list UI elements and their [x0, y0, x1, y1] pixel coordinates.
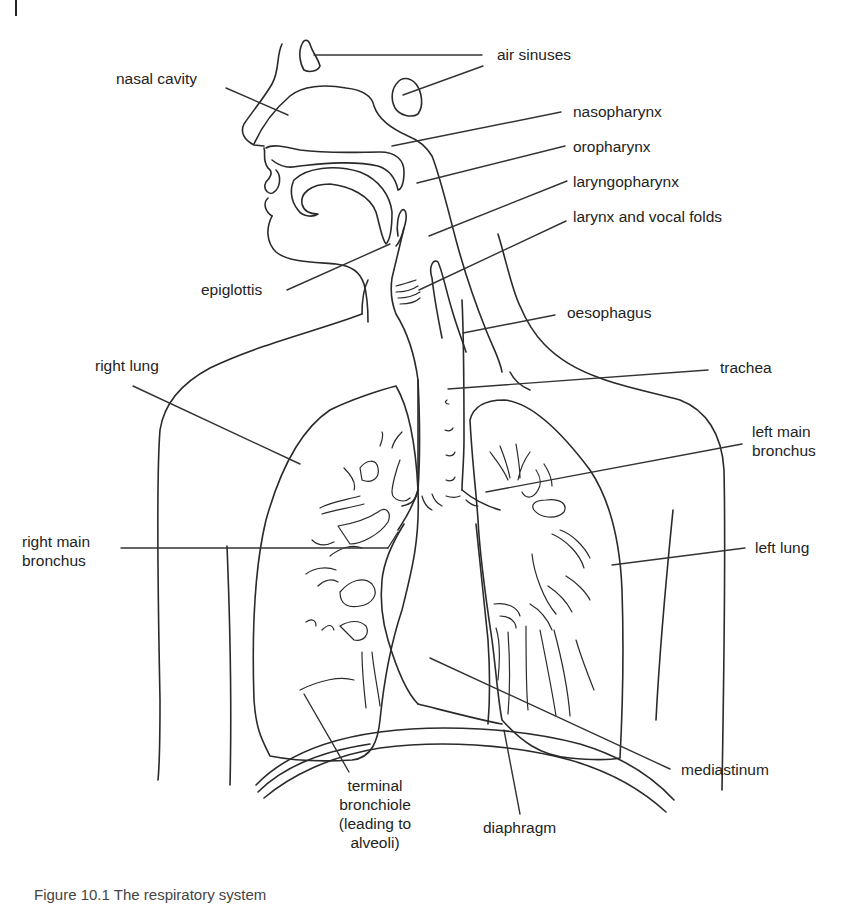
lips-outline	[264, 148, 280, 216]
label-oesophagus: oesophagus	[567, 303, 651, 322]
left-lung-bronchi	[490, 444, 594, 716]
right-shoulder-line	[158, 314, 362, 780]
figure-caption: Figure 10.1 The respiratory system	[34, 886, 266, 903]
label-left-lung: left lung	[755, 538, 809, 557]
oesophagus-outline	[431, 261, 466, 352]
leader-nasal-cavity	[226, 88, 288, 115]
vocal-folds	[396, 280, 420, 304]
leader-laryngopharynx	[429, 181, 567, 236]
tongue-outline	[291, 168, 392, 244]
label-trachea: trachea	[720, 358, 772, 377]
neck-back-line	[510, 372, 530, 390]
label-right-lung: right lung	[95, 356, 159, 375]
leader-oropharynx	[417, 146, 565, 183]
label-larynx-vocal-folds: larynx and vocal folds	[573, 207, 722, 226]
sphenoid-sinus-outline	[392, 78, 421, 116]
left-arm-line	[656, 510, 673, 720]
label-nasal-cavity: nasal cavity	[116, 69, 197, 88]
label-epiglottis: epiglottis	[201, 280, 262, 299]
nasal-inner-line	[254, 86, 502, 372]
right-arm-line	[227, 546, 231, 785]
leader-air-sinus-sphenoid	[403, 66, 483, 95]
leader-diaphragm	[504, 730, 520, 814]
face-profile-upper	[242, 44, 282, 146]
leader-oesophagus	[463, 315, 555, 333]
respiratory-system-diagram: air sinuses nasal cavity nasopharynx oro…	[0, 0, 867, 904]
label-laryngopharynx: laryngopharynx	[573, 172, 679, 191]
trachea-left-wall	[462, 300, 464, 490]
label-left-main-bronchus: left main bronchus	[752, 422, 816, 460]
leader-epiglottis	[287, 244, 390, 290]
label-diaphragm: diaphragm	[483, 818, 556, 837]
label-mediastinum: mediastinum	[681, 760, 769, 779]
leader-left-main-bronchus	[486, 444, 742, 492]
leader-nasopharynx	[392, 112, 561, 146]
trachea-rings	[445, 400, 455, 481]
label-nasopharynx: nasopharynx	[573, 102, 662, 121]
label-air-sinuses: air sinuses	[497, 45, 571, 64]
bronchial-tree-carina	[398, 490, 500, 530]
right-lung-bronchi	[300, 432, 410, 708]
label-terminal-bronchiole: terminal bronchiole (leading to alveoli)	[312, 776, 438, 852]
leader-trachea	[448, 370, 708, 389]
frontal-sinus-outline	[300, 40, 320, 71]
larynx-front-wall	[391, 228, 419, 506]
label-oropharynx: oropharynx	[573, 137, 651, 156]
label-right-main-bronchus: right main bronchus	[22, 532, 90, 570]
left-lung-outline	[470, 400, 623, 760]
leader-mediastinum	[430, 658, 670, 769]
chin-jaw-outline	[268, 216, 368, 322]
page-margin-mark	[15, 0, 17, 16]
